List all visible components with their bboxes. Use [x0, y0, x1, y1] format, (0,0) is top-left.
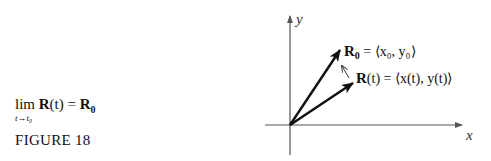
- vector-R0-arrow: [290, 50, 340, 125]
- rt-arg: (t): [367, 71, 381, 87]
- approach-arrow-icon: [342, 66, 349, 78]
- r0-rhs: = ⟨x₀, y₀⟩: [360, 44, 416, 59]
- r0-name: R: [344, 43, 355, 59]
- vector-Rt-label: R(t) = ⟨x(t), y(t)⟩: [356, 70, 452, 87]
- vector-diagram: y x R0 = ⟨x₀, y₀⟩ R(t) = ⟨x(t), y(t)⟩: [0, 0, 491, 161]
- rt-rhs: = ⟨x(t), y(t)⟩: [380, 71, 452, 87]
- vector-R0-label: R0 = ⟨x₀, y₀⟩: [344, 43, 416, 61]
- rt-name: R: [356, 70, 367, 86]
- vector-Rt-arrow: [290, 83, 353, 125]
- x-axis-label: x: [465, 127, 473, 143]
- y-axis-label: y: [294, 11, 303, 27]
